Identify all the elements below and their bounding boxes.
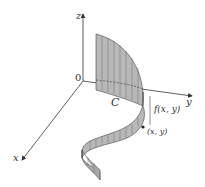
x-axis-label: x	[13, 152, 19, 163]
point-label: (x, y)	[147, 127, 167, 136]
height-label: f(x, y)	[154, 104, 180, 114]
curtain-diagram	[0, 0, 205, 187]
surface-upper	[96, 34, 143, 106]
point-marker	[141, 125, 144, 128]
z-axis-label: z	[76, 10, 81, 21]
origin-label: 0	[75, 72, 81, 83]
x-axis	[22, 81, 83, 160]
y-axis-label: y	[186, 96, 192, 107]
curve-label: C	[111, 96, 119, 109]
diagram: z 0 y x C f(x, y) (x, y)	[0, 0, 205, 187]
